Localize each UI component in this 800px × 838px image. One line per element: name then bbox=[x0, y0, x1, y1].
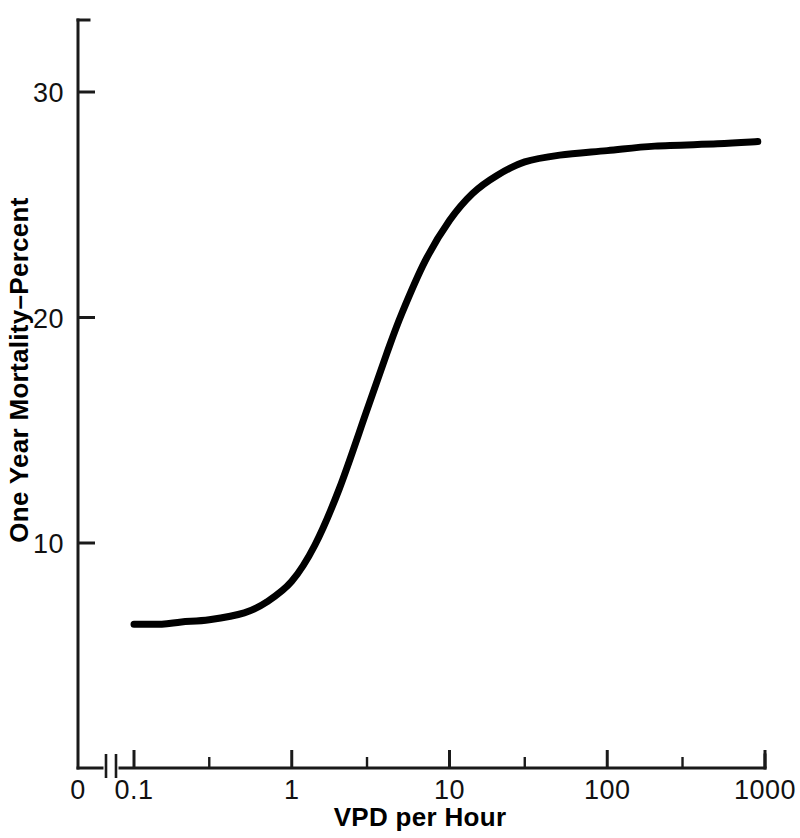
axes-group bbox=[78, 20, 765, 768]
figure-container: 102030 00.11101001000 VPD per Hour One Y… bbox=[0, 0, 800, 838]
y-tick-group bbox=[78, 92, 95, 543]
cropped-caption bbox=[0, 824, 800, 838]
y-axis-title: One Year Mortality–Percent bbox=[4, 197, 34, 543]
x-tick-label: 0 bbox=[70, 775, 86, 805]
y-tick-label-group: 102030 bbox=[33, 78, 64, 559]
mortality-curve bbox=[134, 142, 758, 625]
x-tick-label: 1 bbox=[284, 775, 300, 805]
y-tick-label: 10 bbox=[33, 529, 64, 559]
y-tick-label: 20 bbox=[33, 304, 64, 334]
x-tick-group bbox=[134, 750, 765, 768]
x-tick-label: 10 bbox=[434, 775, 465, 805]
x-tick-label: 1000 bbox=[734, 775, 796, 805]
x-tick-label-group: 00.11101001000 bbox=[70, 775, 796, 805]
y-tick-label: 30 bbox=[33, 78, 64, 108]
x-tick-label: 100 bbox=[584, 775, 631, 805]
mortality-vs-vpd-chart: 102030 00.11101001000 VPD per Hour One Y… bbox=[0, 0, 800, 838]
x-tick-label: 0.1 bbox=[114, 775, 153, 805]
